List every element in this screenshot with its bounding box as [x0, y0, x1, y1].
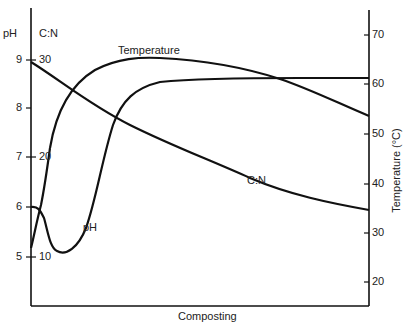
cn-axis-title: C:N [39, 28, 58, 39]
temp-tick-20: 20 [372, 276, 384, 287]
ph-tick-5: 5 [16, 251, 22, 262]
temp-tick-60: 60 [372, 78, 384, 89]
ph-curve-label: pH [83, 222, 97, 233]
cn-tick-30: 30 [39, 54, 51, 65]
temp-tick-70: 70 [372, 29, 384, 40]
cn-curve [31, 62, 369, 210]
cn-curve-label: C:N [247, 175, 266, 186]
ph-tick-9: 9 [16, 54, 22, 65]
temperature-axis-title: Temperature (°C) [391, 123, 402, 219]
temperature-curve-label: Temperature [118, 45, 180, 56]
temp-tick-40: 40 [372, 178, 384, 189]
chart-canvas [0, 0, 411, 329]
ph-tick-6: 6 [16, 201, 22, 212]
x-axis-title: Composting [178, 311, 237, 322]
ph-curve [31, 78, 369, 252]
temp-tick-30: 30 [372, 227, 384, 238]
cn-tick-10: 10 [39, 251, 51, 262]
ph-tick-8: 8 [16, 102, 22, 113]
ph-tick-7: 7 [16, 151, 22, 162]
temperature-curve [50, 58, 369, 148]
ph-axis-title: pH [3, 28, 17, 39]
temp-tick-50: 50 [372, 128, 384, 139]
cn-tick-20: 20 [39, 151, 51, 162]
